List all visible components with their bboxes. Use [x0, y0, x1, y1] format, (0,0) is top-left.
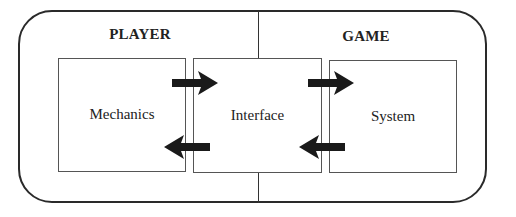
arrow-right-icon [172, 71, 218, 95]
diagram-canvas: PLAYER GAME Mechanics Interface System [0, 0, 516, 217]
arrow-left-icon [299, 135, 345, 159]
arrows-layer [0, 0, 516, 217]
arrow-right-icon [308, 71, 354, 95]
arrow-left-icon [164, 135, 210, 159]
